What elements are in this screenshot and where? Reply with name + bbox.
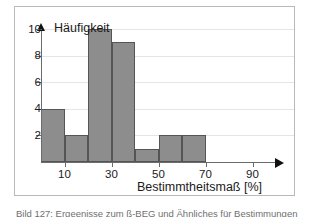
y-axis-line <box>41 30 42 163</box>
histogram-bar <box>41 109 65 162</box>
gridline-y-6 <box>41 82 294 83</box>
histogram-bar <box>182 135 206 162</box>
y-axis-tick-label: 4 <box>19 103 41 114</box>
y-axis-tick-label: 2 <box>19 130 41 141</box>
histogram-bar <box>135 149 159 162</box>
histogram-bar <box>112 42 136 162</box>
figure-caption: Bild 127: Ergeenisse zum ß-BEG und Ähnli… <box>16 208 306 217</box>
y-axis-tick-label: 10 <box>19 24 41 35</box>
x-axis-tick <box>112 163 113 167</box>
gridline-y-8 <box>41 56 294 57</box>
figure-frame: 2 4 6 8 10 10 30 50 70 90 Häufigkeit Bes… <box>14 6 295 196</box>
gridline-y-4 <box>41 109 294 110</box>
x-axis-tick <box>253 163 254 167</box>
y-axis-title: Häufigkeit <box>54 21 110 35</box>
histogram-plot: 2 4 6 8 10 10 30 50 70 90 Häufigkeit Bes… <box>15 7 294 195</box>
x-axis-title: Bestimmtheitsmaß [%] <box>137 180 262 194</box>
x-axis-tick <box>65 163 66 167</box>
histogram-bar <box>88 29 112 162</box>
y-axis-tick-label: 6 <box>19 77 41 88</box>
x-axis-tick <box>206 163 207 167</box>
x-axis-tick-label: 10 <box>50 168 80 181</box>
y-axis-tick-label: 8 <box>19 50 41 61</box>
histogram-bar <box>159 135 183 162</box>
x-axis-tick <box>159 163 160 167</box>
x-axis-tick-label: 30 <box>97 168 127 181</box>
x-axis-arrow-icon <box>275 158 284 168</box>
histogram-bar <box>65 135 89 162</box>
